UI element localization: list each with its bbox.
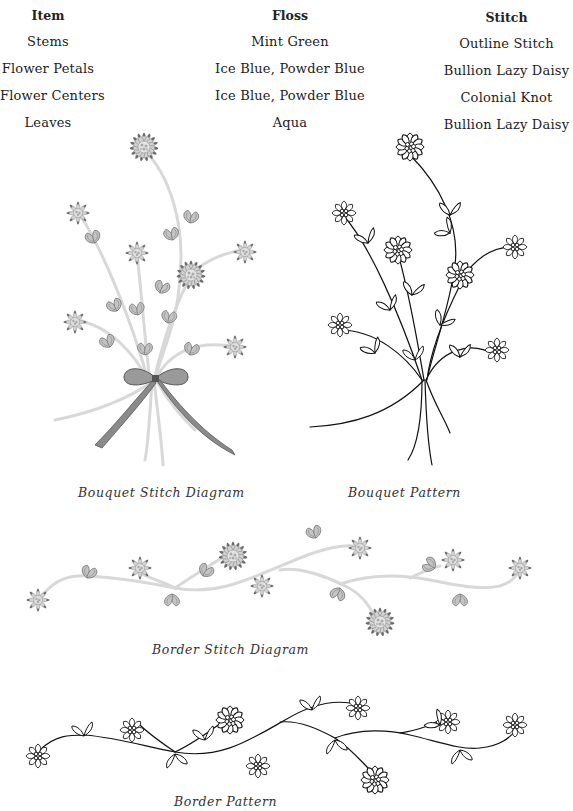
floss-cell: Ice Blue, Powder Blue [205,82,375,109]
stitch-header: Stitch [440,6,573,30]
ribbon-bow-icon [95,369,235,455]
bouquet-stitch-diagram: Bouquet Stitch Diagram [20,115,280,475]
bouquet-pattern-illustration [300,115,560,475]
item-cell: Flower Centers [0,82,96,109]
bouquet-stitch-caption: Bouquet Stitch Diagram [78,485,245,500]
border-pattern: Border Pattern [0,670,573,811]
floss-header: Floss [205,4,375,28]
border-pattern-illustration [0,670,573,795]
floss-cell: Ice Blue, Powder Blue [205,55,375,82]
stitch-cell: Colonial Knot [440,84,573,111]
bouquet-pattern-caption: Bouquet Pattern [348,485,461,500]
border-stitch-caption: Border Stitch Diagram [152,642,309,657]
border-stitch-illustration [0,518,573,643]
border-stitch-diagram: Border Stitch Diagram [0,518,573,658]
stitch-cell: Outline Stitch [440,30,573,57]
bouquet-pattern: Bouquet Pattern [300,115,560,475]
stitch-cell: Bullion Lazy Daisy [440,57,573,84]
item-cell: Flower Petals [0,55,96,82]
floss-cell: Mint Green [205,28,375,55]
border-pattern-caption: Border Pattern [174,794,277,809]
item-header: Item [0,4,96,28]
bouquet-stitch-illustration [20,115,280,475]
item-cell: Stems [0,28,96,55]
